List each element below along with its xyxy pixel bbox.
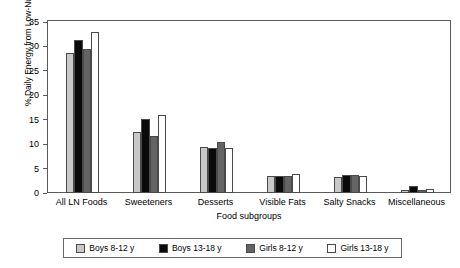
x-axis-title: Food subgroups <box>48 210 450 222</box>
bar <box>200 147 208 193</box>
plot-area <box>47 20 451 193</box>
bar <box>334 177 342 193</box>
bar-group <box>384 22 451 193</box>
bar <box>83 49 91 193</box>
x-axis-category-label: Desserts <box>182 196 249 208</box>
x-axis-category-label: Miscellaneous <box>383 196 450 208</box>
x-axis-category-label: All LN Foods <box>48 196 115 208</box>
legend-label: Boys 13-18 y <box>172 243 222 253</box>
y-axis-tick-label: 10 <box>29 138 39 150</box>
bar <box>217 142 225 193</box>
bar <box>426 189 434 193</box>
x-axis-category-label: Visible Fats <box>249 196 316 208</box>
bar <box>133 132 141 193</box>
legend-label: Girls 13-18 y <box>340 243 388 253</box>
legend-item: Girls 13-18 y <box>327 243 388 253</box>
bar <box>401 190 409 193</box>
bar <box>292 174 300 193</box>
x-axis-category-label: Sweeteners <box>115 196 182 208</box>
y-axis-tick-label: 35 <box>29 16 39 28</box>
bar <box>158 115 166 193</box>
legend-label: Boys 8-12 y <box>89 243 134 253</box>
bar <box>351 175 359 193</box>
bars-layer <box>49 22 451 193</box>
y-axis-tick-label: 20 <box>29 89 39 101</box>
y-axis-tick-label: 30 <box>29 40 39 52</box>
legend-swatch <box>159 244 168 253</box>
bar <box>267 176 275 193</box>
bar <box>141 119 149 193</box>
x-axis-category-label: Salty Snacks <box>316 196 383 208</box>
bar-group <box>250 22 317 193</box>
bar <box>74 40 82 193</box>
legend-item: Boys 8-12 y <box>76 243 134 253</box>
bar <box>225 148 233 193</box>
y-axis-ticks: 05101520253035 <box>0 20 47 193</box>
legend-swatch <box>76 244 85 253</box>
bar-group <box>49 22 116 193</box>
bar <box>342 175 350 193</box>
bar <box>91 32 99 193</box>
bar <box>418 190 426 193</box>
chart-legend: Boys 8-12 yBoys 13-18 yGirls 8-12 yGirls… <box>63 238 402 258</box>
legend-swatch <box>246 244 255 253</box>
bar-group <box>116 22 183 193</box>
bar-chart: % Daily Energy from Low-Nutrient Foods 0… <box>0 0 460 268</box>
bar <box>409 186 417 193</box>
bar <box>359 176 367 193</box>
bar <box>66 53 74 193</box>
bar <box>208 148 216 193</box>
y-axis-tick-label: 15 <box>29 114 39 126</box>
bar <box>275 176 283 193</box>
legend-label: Girls 8-12 y <box>259 243 302 253</box>
legend-item: Girls 8-12 y <box>246 243 302 253</box>
bar <box>284 176 292 193</box>
bar-group <box>183 22 250 193</box>
bar-group <box>317 22 384 193</box>
y-axis-tick-label: 0 <box>34 187 39 199</box>
x-axis-category-labels: All LN FoodsSweetenersDessertsVisible Fa… <box>48 196 450 210</box>
y-axis-tick-label: 5 <box>34 163 39 175</box>
legend-item: Boys 13-18 y <box>159 243 222 253</box>
bar <box>150 136 158 193</box>
legend-swatch <box>327 244 336 253</box>
y-axis-tick-label: 25 <box>29 65 39 77</box>
